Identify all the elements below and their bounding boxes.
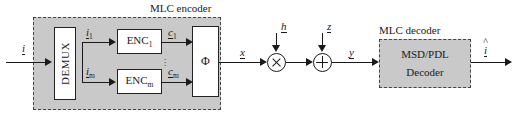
signal-branch-last-label: im (86, 66, 95, 80)
wire-demux-to-branch-first-vertical (82, 42, 83, 62)
encoder-first-label: ENC1 (127, 34, 153, 49)
arrowhead-to-decoder (372, 58, 379, 66)
signal-received-label: y (349, 47, 354, 59)
mlc-encoder-caption: MLC encoder (150, 2, 211, 14)
wire-code-last (162, 82, 188, 83)
decoder-block: MSD/PDL Decoder (379, 39, 471, 88)
demux-block: DEMUX (54, 27, 76, 100)
arrowhead-to-multiplier (260, 58, 267, 66)
wire-input (6, 62, 46, 63)
mapper-block: Φ (192, 26, 219, 97)
signal-noise-label: z (327, 21, 331, 33)
wire-adder-to-decoder (332, 62, 374, 63)
wire-demux-to-branch-last-vertical (82, 62, 83, 82)
mlc-decoder-caption: MLC decoder (379, 24, 440, 36)
multiplier-operator (267, 53, 286, 72)
signal-channel-symbol-label: x (240, 47, 245, 59)
signal-code-first-label: c1 (168, 27, 177, 41)
arrowhead-to-adder (306, 58, 313, 66)
wire-branch-last (82, 82, 111, 83)
ellipsis-between-encoders: ... (164, 56, 166, 66)
encoder-block-last: ENCm (117, 69, 162, 94)
arrowhead-noise (318, 45, 326, 52)
decoder-label-line2: Decoder (406, 64, 443, 81)
arrowhead-channel-gain (272, 45, 280, 52)
encoder-last-label: ENCm (126, 74, 154, 89)
arrowhead-branch-last (109, 78, 116, 86)
wire-mapper-to-multiplier (219, 62, 262, 63)
demux-label: DEMUX (59, 42, 71, 85)
wire-code-first (162, 42, 188, 43)
wire-branch-first (82, 42, 111, 43)
arrowhead-input (45, 58, 52, 66)
encoder-block-first: ENC1 (117, 29, 162, 54)
signal-channel-gain-label: h (281, 21, 287, 33)
adder-operator (313, 53, 332, 72)
signal-code-last-label: cm (168, 66, 179, 80)
wire-multiplier-to-adder (286, 62, 308, 63)
mapper-label: Φ (201, 54, 210, 69)
signal-estimate-label: i (484, 45, 487, 57)
diagram-canvas: MLC encoder i DEMUX i1 ENC1 c1 ... im EN… (0, 0, 516, 118)
signal-input-label: i (22, 43, 25, 55)
decoder-label-line1: MSD/PDL (401, 46, 449, 63)
wire-decoder-output (471, 62, 507, 63)
signal-branch-first-label: i1 (86, 27, 93, 41)
arrowhead-branch-first (109, 38, 116, 46)
arrowhead-output (505, 58, 512, 66)
